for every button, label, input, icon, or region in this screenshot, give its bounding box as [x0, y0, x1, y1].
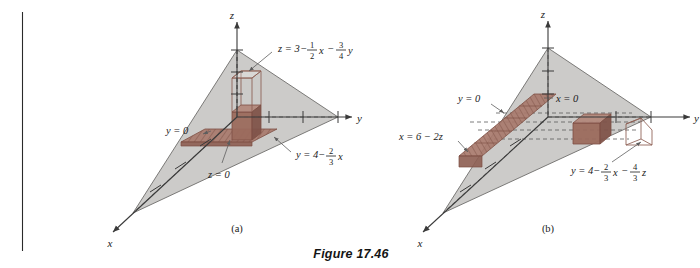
- label-surface-equation-b-x: x: [612, 167, 618, 178]
- y-axis-label-b: y: [693, 112, 699, 124]
- x-axis-label-a: x: [107, 237, 113, 249]
- frac-1-numerator-a: 1: [310, 40, 314, 50]
- label-surface-equation-a-y: y: [347, 45, 353, 56]
- panel-b: z y x y = 0 x = 0 x = 6 − 2z y = 4 − 2 3…: [398, 8, 699, 249]
- sample-box-front-a: [232, 112, 252, 140]
- label-surface-equation-a-lhs: z = 3: [277, 43, 300, 54]
- frac-3-denominator-b2: 3: [633, 173, 637, 183]
- frac-2-numerator-b: 2: [604, 162, 608, 172]
- figure-caption: Figure 17.46: [313, 247, 389, 261]
- panel-a: z y x z = 3 − 1 2 x − 3 4 y: [107, 9, 362, 249]
- plane-triangle-b: [443, 48, 651, 213]
- frac-3-denominator-a2: 3: [329, 157, 333, 167]
- label-z-equals-zero-a: z = 0: [207, 169, 230, 180]
- frac-4-denominator-a: 4: [339, 51, 344, 61]
- sample-box-front-b: [573, 123, 600, 144]
- label-surface-equation-b-minus1: −: [594, 165, 600, 176]
- leader-y-equals-zero-b: [491, 104, 504, 113]
- panel-tag-b: (b): [542, 223, 555, 235]
- frac-2-denominator-a: 2: [310, 51, 314, 61]
- figure-canvas: z y x z = 3 − 1 2 x − 3 4 y: [0, 0, 700, 268]
- label-surface-equation-b-z: z: [641, 167, 646, 178]
- leader-line-x-equation-b: [458, 141, 468, 152]
- z-axis-label-b: z: [540, 8, 546, 20]
- label-x-equals-zero-b: x = 0: [555, 93, 579, 104]
- diagonal-slab-foot-b: [459, 156, 482, 167]
- label-surface-equation-b-minus2: −: [622, 165, 628, 176]
- y-axis-label-a: y: [356, 112, 362, 124]
- label-line-y-equation-a: y = 4 − 2 3 x: [295, 146, 343, 167]
- label-surface-equation-b-lhs: y = 4: [570, 165, 594, 176]
- label-line-y-equation-a-minus: −: [319, 149, 325, 160]
- label-surface-equation-a-minus1: −: [301, 43, 307, 54]
- frac-4-numerator-b: 4: [633, 162, 638, 172]
- frac-3-numerator-a: 3: [339, 40, 343, 50]
- z-axis-label-a: z: [229, 9, 235, 21]
- figure-container: z y x z = 3 − 1 2 x − 3 4 y: [0, 0, 700, 268]
- label-surface-equation-a-x: x: [318, 45, 324, 56]
- base-slab-front-a: [181, 142, 252, 146]
- label-line-y-equation-a-x: x: [337, 151, 343, 162]
- label-surface-equation-b: y = 4 − 2 3 x − 4 3 z: [570, 162, 646, 183]
- label-y-equals-zero-b: y = 0: [457, 93, 481, 104]
- label-surface-equation-a: z = 3 − 1 2 x − 3 4 y: [277, 40, 353, 61]
- label-line-y-equation-a-lhs: y = 4: [295, 149, 319, 160]
- panel-tag-a: (a): [231, 223, 243, 235]
- x-axis-label-b: x: [417, 237, 423, 249]
- label-line-x-equation-b: x = 6 − 2z: [398, 131, 443, 142]
- frac-3-denominator-b: 3: [604, 173, 608, 183]
- label-surface-equation-a-minus2: −: [328, 43, 334, 54]
- frac-2-numerator-a2: 2: [329, 146, 333, 156]
- label-y-equals-zero-a: y = 0: [165, 125, 189, 136]
